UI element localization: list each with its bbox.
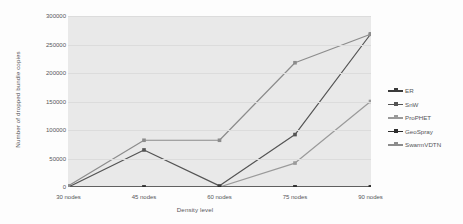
series-geospray xyxy=(68,185,371,187)
legend: ERSnWProPHETGeoSpraySwarmVDTN xyxy=(388,84,462,152)
series-line xyxy=(69,34,371,186)
data-point-marker xyxy=(293,133,297,137)
y-tick-label: 300000 xyxy=(46,13,66,19)
series-snw xyxy=(68,32,371,187)
data-point-marker xyxy=(369,32,371,36)
legend-label: SnW xyxy=(405,101,418,108)
legend-swatch-icon xyxy=(388,101,403,108)
data-point-marker xyxy=(142,138,146,142)
x-tick-label: 30 nodes xyxy=(56,194,81,200)
y-tick-label: 100000 xyxy=(46,127,66,133)
data-point-marker xyxy=(142,185,146,187)
gridline xyxy=(68,159,371,160)
gridline xyxy=(68,102,371,103)
gridline xyxy=(68,45,371,46)
series-swarmvdtn xyxy=(68,32,371,187)
x-tick-label: 45 nodes xyxy=(132,194,157,200)
series-line xyxy=(69,102,371,188)
gridline xyxy=(68,16,371,17)
x-tick-label: 60 nodes xyxy=(207,194,232,200)
data-point-marker xyxy=(293,185,297,187)
data-point-marker xyxy=(369,185,371,187)
y-axis-tick-labels: 050000100000150000200000250000300000 xyxy=(18,16,66,187)
y-tick-label: 0 xyxy=(63,184,66,190)
legend-item-prophet[interactable]: ProPHET xyxy=(388,111,462,125)
legend-label: ProPHET xyxy=(405,114,431,121)
legend-swatch-icon xyxy=(388,87,403,94)
legend-item-snw[interactable]: SnW xyxy=(388,98,462,112)
data-point-marker xyxy=(293,61,297,65)
y-tick-label: 250000 xyxy=(46,42,66,48)
gridline xyxy=(68,73,371,74)
legend-swatch-icon xyxy=(388,141,403,148)
data-point-marker xyxy=(68,184,70,187)
legend-swatch-icon xyxy=(388,128,403,135)
legend-label: ER xyxy=(405,87,414,94)
legend-item-er[interactable]: ER xyxy=(388,84,462,98)
x-tick-label: 75 nodes xyxy=(283,194,308,200)
series-prophet xyxy=(68,100,371,187)
legend-item-geospray[interactable]: GeoSpray xyxy=(388,125,462,139)
x-tick-label: 90 nodes xyxy=(358,194,383,200)
line-chart: Number of dropped bundle copies 05000010… xyxy=(0,0,463,224)
legend-label: SwarmVDTN xyxy=(405,141,441,148)
legend-swatch-icon xyxy=(388,114,403,121)
series-line xyxy=(69,34,371,187)
y-tick-label: 150000 xyxy=(46,99,66,105)
gridline xyxy=(68,130,371,131)
data-point-marker xyxy=(218,138,222,142)
plot-area xyxy=(68,16,371,187)
y-tick-label: 50000 xyxy=(49,156,66,162)
legend-label: GeoSpray xyxy=(405,128,433,135)
legend-item-swarmvdtn[interactable]: SwarmVDTN xyxy=(388,138,462,152)
data-point-marker xyxy=(293,161,297,165)
data-point-marker xyxy=(218,185,222,187)
y-tick-label: 200000 xyxy=(46,70,66,76)
data-point-marker xyxy=(142,148,146,152)
x-axis-tick-labels: 30 nodes45 nodes60 nodes75 nodes90 nodes xyxy=(68,190,371,204)
x-axis-title: Density level xyxy=(0,206,390,213)
